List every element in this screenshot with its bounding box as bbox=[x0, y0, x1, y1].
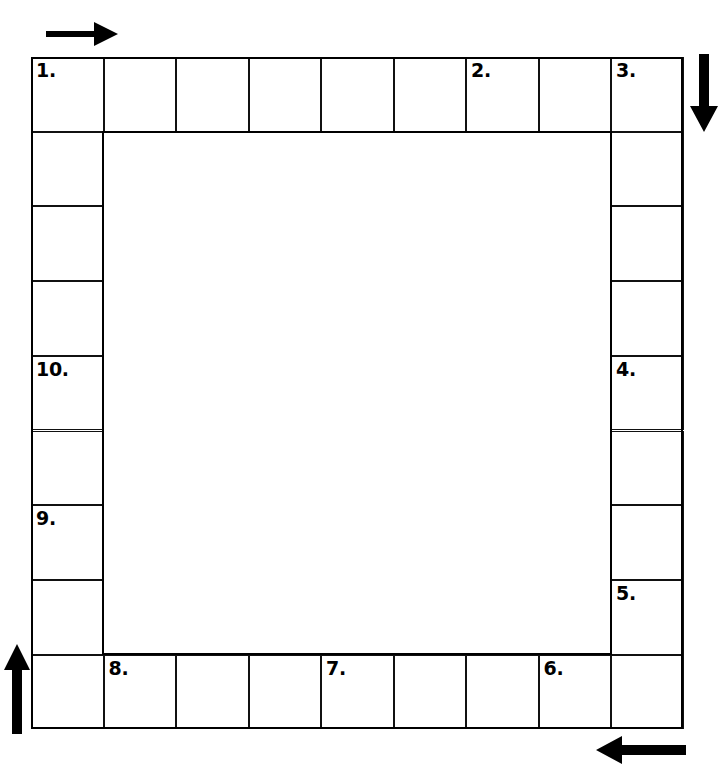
grid-cell-r8-c6[interactable] bbox=[466, 655, 539, 730]
grid-cell-r8-c7[interactable]: 6. bbox=[539, 655, 612, 730]
cell-clue-number: 3. bbox=[616, 58, 636, 82]
grid-cell-r8-c4[interactable]: 7. bbox=[321, 655, 394, 730]
cell-clue-number: 6. bbox=[544, 656, 564, 680]
puzzle-stage: 1.2.3.10.4.9.5.8.7.6. bbox=[0, 0, 721, 769]
cell-clue-number: 9. bbox=[36, 506, 56, 530]
arrow-up-icon bbox=[2, 640, 32, 736]
cell-clue-number: 2. bbox=[471, 58, 491, 82]
grid-cell-r0-c0[interactable]: 1. bbox=[31, 57, 104, 132]
grid-cell-r5-c0[interactable] bbox=[31, 431, 104, 506]
grid-cell-r0-c7[interactable] bbox=[539, 57, 612, 132]
grid-cell-r5-c8[interactable] bbox=[611, 431, 684, 506]
grid-cell-r0-c1[interactable] bbox=[104, 57, 177, 132]
grid-cell-r3-c8[interactable] bbox=[611, 281, 684, 356]
grid-cell-r0-c6[interactable]: 2. bbox=[466, 57, 539, 132]
grid-cell-r8-c8[interactable] bbox=[611, 655, 684, 730]
grid-cell-r0-c5[interactable] bbox=[394, 57, 467, 132]
grid-cell-r4-c0[interactable]: 10. bbox=[31, 356, 104, 431]
grid-cell-r6-c0[interactable]: 9. bbox=[31, 505, 104, 580]
grid-cell-r7-c8[interactable]: 5. bbox=[611, 580, 684, 655]
grid-cell-r0-c2[interactable] bbox=[176, 57, 249, 132]
grid-cell-r1-c0[interactable] bbox=[31, 132, 104, 207]
grid-cell-r6-c8[interactable] bbox=[611, 505, 684, 580]
cell-clue-number: 8. bbox=[109, 656, 129, 680]
grid-cell-r8-c3[interactable] bbox=[249, 655, 322, 730]
grid-cell-r0-c8[interactable]: 3. bbox=[611, 57, 684, 132]
grid-cell-r8-c2[interactable] bbox=[176, 655, 249, 730]
cell-clue-number: 10. bbox=[36, 357, 69, 381]
grid-cell-r4-c8[interactable]: 4. bbox=[611, 356, 684, 431]
grid-cell-r8-c0[interactable] bbox=[31, 655, 104, 730]
crossword-ring-grid: 1.2.3.10.4.9.5.8.7.6. bbox=[31, 57, 683, 729]
grid-cell-r2-c8[interactable] bbox=[611, 206, 684, 281]
grid-cell-r0-c3[interactable] bbox=[249, 57, 322, 132]
grid-cell-r2-c0[interactable] bbox=[31, 206, 104, 281]
arrow-left-icon bbox=[592, 731, 688, 769]
grid-cell-r0-c4[interactable] bbox=[321, 57, 394, 132]
cell-clue-number: 1. bbox=[36, 58, 56, 82]
cell-clue-number: 4. bbox=[616, 357, 636, 381]
grid-cell-r8-c1[interactable]: 8. bbox=[104, 655, 177, 730]
arrow-down-icon bbox=[688, 52, 720, 136]
cell-clue-number: 7. bbox=[326, 656, 346, 680]
grid-cell-r7-c0[interactable] bbox=[31, 580, 104, 655]
grid-cell-r1-c8[interactable] bbox=[611, 132, 684, 207]
grid-cell-r8-c5[interactable] bbox=[394, 655, 467, 730]
grid-cell-r3-c0[interactable] bbox=[31, 281, 104, 356]
cell-clue-number: 5. bbox=[616, 581, 636, 605]
arrow-right-icon bbox=[44, 14, 120, 54]
